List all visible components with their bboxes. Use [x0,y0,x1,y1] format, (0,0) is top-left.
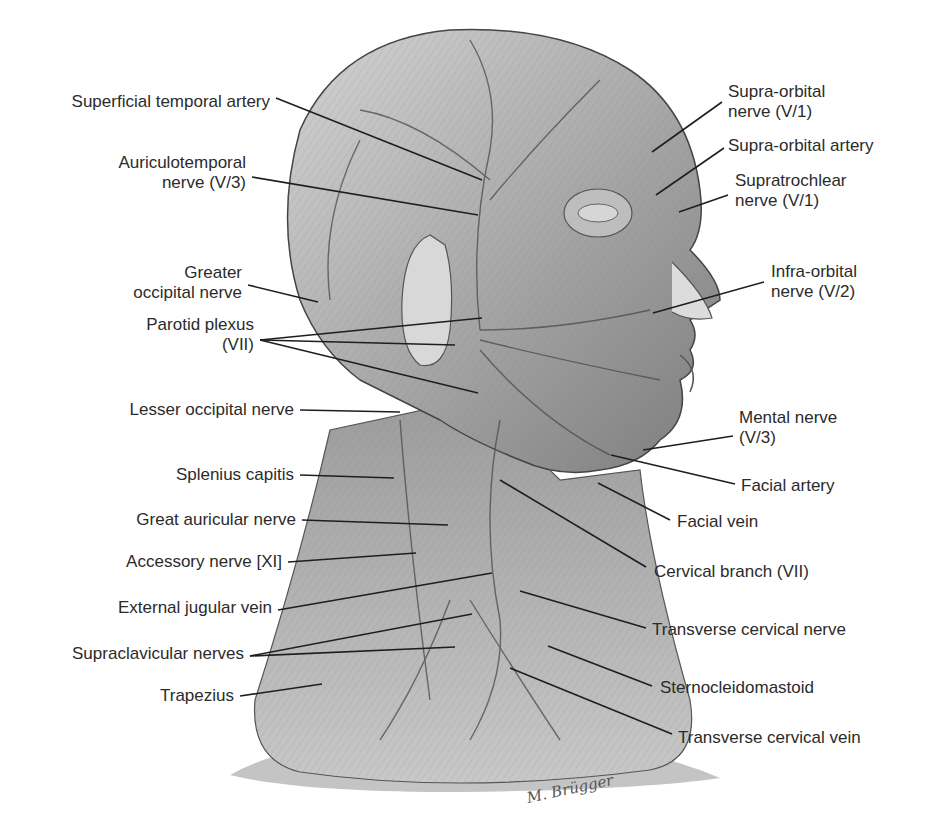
label-line: Greater [133,263,242,283]
label-line: Supraclavicular nerves [72,644,244,664]
label-line: Transverse cervical nerve [652,620,846,640]
label-line: Facial artery [741,476,835,496]
label-mental-nerve: Mental nerve(V/3) [739,408,837,448]
label-line: occipital nerve [133,283,242,303]
label-splenius-capitis: Splenius capitis [176,465,294,485]
label-supratrochlear-nerve: Supratrochlearnerve (V/1) [735,171,847,211]
label-supraclavicular-nerves: Supraclavicular nerves [72,644,244,664]
label-accessory-nerve: Accessory nerve [XI] [126,552,282,572]
label-facial-vein: Facial vein [677,512,758,532]
label-cervical-branch: Cervical branch (VII) [654,562,809,582]
label-trapezius: Trapezius [160,686,234,706]
label-line: Supra-orbital artery [728,136,874,156]
label-transverse-cervical-nerve: Transverse cervical nerve [652,620,846,640]
label-external-jugular-vein: External jugular vein [118,598,272,618]
label-line: nerve (V/1) [728,102,825,122]
label-line: nerve (V/1) [735,191,847,211]
label-line: Trapezius [160,686,234,706]
label-facial-artery: Facial artery [741,476,835,496]
label-line: Infra-orbital [771,262,857,282]
label-line: Splenius capitis [176,465,294,485]
label-line: Mental nerve [739,408,837,428]
label-line: Superficial temporal artery [72,92,270,112]
label-line: Parotid plexus [146,315,254,335]
label-line: (V/3) [739,428,837,448]
label-line: nerve (V/2) [771,282,857,302]
leader-line-lesser-occipital-nerve [300,410,400,412]
label-lesser-occipital-nerve: Lesser occipital nerve [130,400,294,420]
label-infra-orbital-nerve: Infra-orbitalnerve (V/2) [771,262,857,302]
label-line: Accessory nerve [XI] [126,552,282,572]
label-line: Facial vein [677,512,758,532]
label-parotid-plexus: Parotid plexus(VII) [146,315,254,355]
label-auriculotemporal-nerve: Auriculotemporalnerve (V/3) [118,153,246,193]
label-line: Lesser occipital nerve [130,400,294,420]
label-line: Supra-orbital [728,82,825,102]
label-line: (VII) [146,335,254,355]
label-great-auricular-nerve: Great auricular nerve [136,510,296,530]
label-line: Auriculotemporal [118,153,246,173]
label-superficial-temporal-artery: Superficial temporal artery [72,92,270,112]
label-supra-orbital-artery: Supra-orbital artery [728,136,874,156]
label-sternocleidomastoid: Sternocleidomastoid [660,678,814,698]
label-line: Supratrochlear [735,171,847,191]
label-greater-occipital-nerve: Greateroccipital nerve [133,263,242,303]
label-line: Transverse cervical vein [678,728,861,748]
label-supra-orbital-nerve: Supra-orbitalnerve (V/1) [728,82,825,122]
label-line: Cervical branch (VII) [654,562,809,582]
label-line: Great auricular nerve [136,510,296,530]
label-transverse-cervical-vein: Transverse cervical vein [678,728,861,748]
label-line: External jugular vein [118,598,272,618]
label-line: Sternocleidomastoid [660,678,814,698]
label-line: nerve (V/3) [118,173,246,193]
anatomy-figure: Superficial temporal arteryAuriculotempo… [0,0,936,817]
